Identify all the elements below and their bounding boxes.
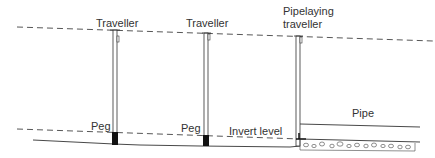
traveller-label-2: Traveller [186,17,228,29]
ground-line [33,140,300,147]
peg-label-2: Peg [181,122,201,134]
pipe-label: Pipe [352,107,374,119]
pipe-laying-diagram: Traveller Traveller Pipelaying traveller… [0,0,435,158]
peg-1 [112,132,118,145]
traveller-2 [202,33,211,136]
pipelaying-traveller-label-1: Pipelaying [283,5,334,17]
peg-2 [203,135,209,146]
traveller-label-1: Traveller [96,17,138,29]
pipelaying-traveller [294,36,306,146]
pipelaying-traveller-label-2: traveller [283,18,322,30]
pipe [300,124,420,142]
sight-line [17,27,433,41]
invert-level-label: Invert level [229,125,282,137]
peg-label-1: Peg [91,120,111,132]
traveller-1 [110,30,120,133]
